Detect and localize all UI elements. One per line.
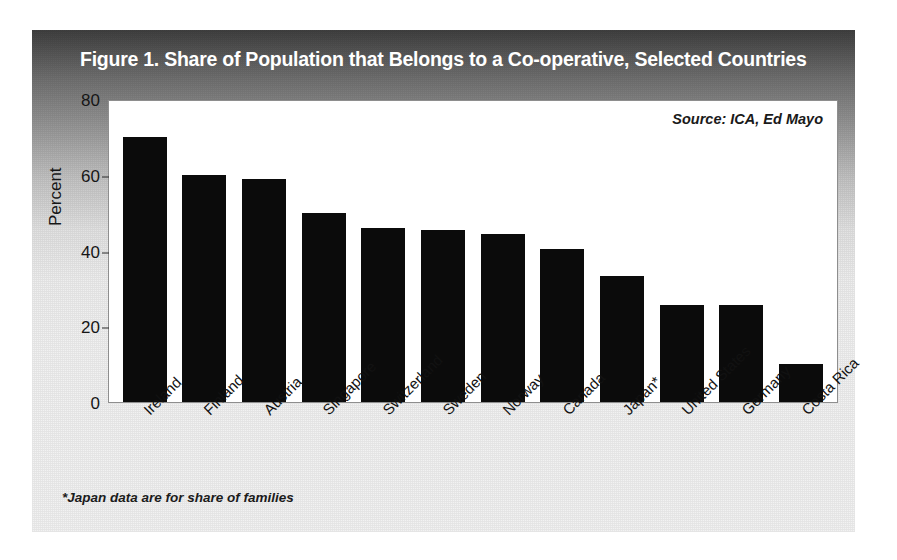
y-tick-mark [102,252,109,253]
page-title: Figure 1. Share of Population that Belon… [80,48,840,71]
bar [123,137,167,402]
y-tick-label: 80 [81,91,100,111]
bar [302,213,346,402]
y-tick-label: 0 [91,394,100,414]
y-tick-mark [102,176,109,177]
bar [600,276,644,402]
y-axis-title: Percent [46,167,66,226]
y-tick-label: 40 [81,243,100,263]
figure-panel: Figure 1. Share of Population that Belon… [32,30,855,532]
y-tick-label: 20 [81,318,100,338]
y-tick-mark [102,328,109,329]
footnote: *Japan data are for share of families [62,490,294,505]
bar [242,179,286,402]
bar [182,175,226,402]
bar [540,249,584,402]
y-tick-label: 60 [81,167,100,187]
